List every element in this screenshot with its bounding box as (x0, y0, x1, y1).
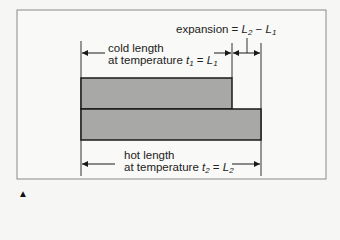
hot-length-line1: hot length (124, 149, 234, 161)
triangle-pointer-icon: ▲ (18, 188, 28, 200)
expansion-l2: L2 (242, 23, 253, 35)
cold-length-line1: cold length (108, 42, 218, 54)
cold-bar (81, 78, 232, 109)
expansion-text: expansion = (176, 23, 238, 35)
expansion-minus: − (256, 23, 263, 35)
expansion-label: expansion = L2 − L1 (176, 23, 276, 39)
cold-length-line2: at temperature t1 = L1 (108, 54, 218, 70)
cold-length-label: cold length at temperature t1 = L1 (108, 42, 218, 70)
hot-bar (81, 109, 261, 140)
hot-length-line2: at temperature t2 = L2 (124, 161, 234, 177)
expansion-l1: L1 (266, 23, 277, 35)
hot-length-label: hot length at temperature t2 = L2 (124, 149, 234, 177)
